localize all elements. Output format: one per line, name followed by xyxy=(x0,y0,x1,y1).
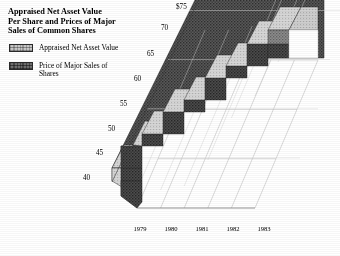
x-tick-1979: 1979 xyxy=(127,226,153,233)
chart-figure: Appraised Net Asset Value Per Share and … xyxy=(0,0,340,256)
chart-plot-area xyxy=(0,0,340,256)
y-tick-50: 50 xyxy=(108,126,115,133)
x-tick-1981: 1981 xyxy=(189,226,215,233)
x-tick-1980: 1980 xyxy=(158,226,184,233)
y-tick-75: $75 xyxy=(176,4,187,11)
x-tick-1982: 1982 xyxy=(220,226,246,233)
y-tick-45: 45 xyxy=(96,150,103,157)
x-tick-1983: 1983 xyxy=(251,226,277,233)
y-tick-55: 55 xyxy=(120,101,127,108)
y-tick-70: 70 xyxy=(161,25,168,32)
y-tick-60: 60 xyxy=(134,76,141,83)
y-tick-65: 65 xyxy=(147,51,154,58)
y-tick-40: 40 xyxy=(83,175,90,182)
